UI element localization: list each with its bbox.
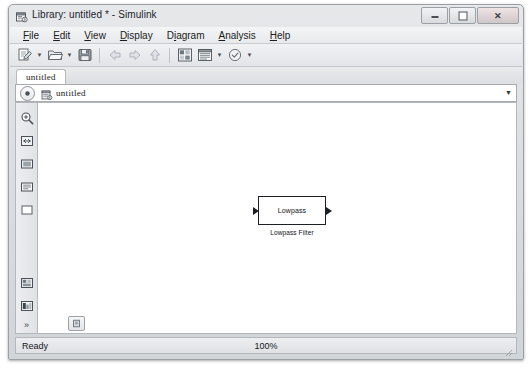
model-explorer-icon[interactable] xyxy=(195,46,214,65)
open-folder-icon[interactable] xyxy=(45,46,64,65)
breadcrumb-path[interactable]: untitled xyxy=(56,88,86,98)
menu-label-analysis: nalysis xyxy=(225,30,256,41)
block-parameters-icon[interactable] xyxy=(18,297,35,314)
menu-item-file[interactable]: File xyxy=(16,29,46,42)
menu-label-view: iew xyxy=(91,30,106,41)
menu-label-diagram: agram xyxy=(176,30,204,41)
close-button[interactable]: ✕ xyxy=(477,7,519,24)
lowpass-filter-block[interactable]: Lowpass Lowpass Filter xyxy=(254,196,330,236)
up-arrow-icon[interactable] xyxy=(145,46,164,65)
status-bar: Ready 100% xyxy=(15,337,517,354)
zoom-normal-icon[interactable] xyxy=(18,155,35,172)
output-port-arrow-icon[interactable] xyxy=(326,207,332,215)
zoom-level: 100% xyxy=(16,341,516,351)
library-icon xyxy=(41,87,53,99)
library-browser-icon[interactable] xyxy=(175,46,194,65)
model-explorer-dropdown[interactable]: ▼ xyxy=(215,46,224,65)
new-model-icon[interactable] xyxy=(15,46,34,65)
tab-label: untitled xyxy=(26,72,56,82)
application-window: Library: untitled * - Simulink ✕ File Ed… xyxy=(8,4,524,360)
menu-item-analysis[interactable]: Analysis xyxy=(212,29,263,42)
menu-label-help: elp xyxy=(277,30,290,41)
simulink-library-window-screenshot: Library: untitled * - Simulink ✕ File Ed… xyxy=(0,0,532,375)
sidebar-overflow-button[interactable]: » xyxy=(24,320,29,330)
menu-item-view[interactable]: View xyxy=(77,29,113,42)
menu-item-edit[interactable]: Edit xyxy=(46,29,77,42)
title-bar: Library: untitled * - Simulink ✕ xyxy=(9,5,523,27)
properties-icon[interactable] xyxy=(68,316,85,331)
block-label: Lowpass xyxy=(278,207,306,214)
menu-label-display: isplay xyxy=(127,30,153,41)
block-body[interactable]: Lowpass xyxy=(258,196,326,225)
menu-label-edit: dit xyxy=(60,30,71,41)
breadcrumb: untitled ▼ xyxy=(15,84,517,102)
toolbar-separator-2 xyxy=(169,48,170,63)
input-port-arrow-icon[interactable] xyxy=(253,207,259,215)
fit-to-view-icon[interactable] xyxy=(18,132,35,149)
menu-label-file: ile xyxy=(29,30,39,41)
editor-body: » Lowpass Lowpass Filter xyxy=(15,102,517,334)
save-icon[interactable] xyxy=(75,46,94,65)
update-diagram-dropdown[interactable]: ▼ xyxy=(245,46,254,65)
tab-untitled[interactable]: untitled xyxy=(16,69,66,84)
menu-bar: File Edit View Display Diagram Analysis … xyxy=(10,27,522,44)
chevron-down-icon[interactable]: ▼ xyxy=(505,89,512,96)
open-dropdown[interactable]: ▼ xyxy=(65,46,74,65)
back-circle-icon[interactable] xyxy=(20,86,35,101)
window-title: Library: untitled * - Simulink xyxy=(32,9,157,20)
model-canvas[interactable]: Lowpass Lowpass Filter xyxy=(37,102,517,334)
annotation-icon[interactable] xyxy=(18,178,35,195)
back-arrow-icon[interactable] xyxy=(105,46,124,65)
resize-grip[interactable] xyxy=(505,343,513,351)
block-caption: Lowpass Filter xyxy=(254,229,330,236)
menu-item-help[interactable]: Help xyxy=(263,29,298,42)
new-model-dropdown[interactable]: ▼ xyxy=(35,46,44,65)
forward-arrow-icon[interactable] xyxy=(125,46,144,65)
tool-bar: ▼ ▼ xyxy=(10,44,522,67)
minimize-button[interactable] xyxy=(421,7,448,24)
update-diagram-icon[interactable] xyxy=(225,46,244,65)
model-settings-icon[interactable] xyxy=(18,274,35,291)
maximize-button[interactable] xyxy=(449,7,476,24)
zoom-in-icon[interactable] xyxy=(18,109,35,126)
window-controls: ✕ xyxy=(421,7,519,24)
canvas-toolbar: » xyxy=(15,102,37,334)
menu-item-diagram[interactable]: Diagram xyxy=(160,29,212,42)
simulink-library-icon xyxy=(15,9,28,22)
toolbar-separator-1 xyxy=(99,48,100,63)
rectangle-icon[interactable] xyxy=(18,201,35,218)
tab-strip: untitled xyxy=(10,67,522,84)
menu-item-display[interactable]: Display xyxy=(113,29,160,42)
